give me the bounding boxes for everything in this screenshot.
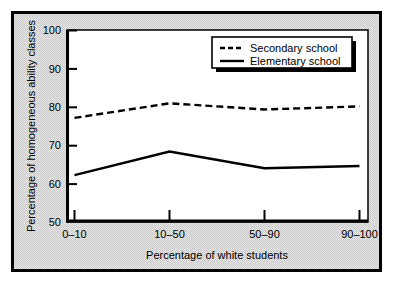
legend-label-elementary-school: Elementary school [250,55,341,67]
legend-label-secondary-school: Secondary school [250,42,337,54]
y-tick-label-90: 90 [49,63,61,75]
figure-container: 100 90 80 70 60 50 0–10 10–50 50–90 90–1… [0,0,400,293]
chart-legend: Secondary school Elementary school [212,37,356,72]
y-axis-title: Percentage of homogeneous ability classe… [25,19,37,232]
x-tick-label-0-10: 0–10 [62,228,86,240]
line-chart: 100 90 80 70 60 50 0–10 10–50 50–90 90–1… [0,0,400,293]
x-tick-label-50-90: 50–90 [249,228,280,240]
y-tick-label-50: 50 [49,216,61,228]
y-tick-label-70: 70 [49,139,61,151]
x-tick-label-90-100: 90–100 [341,228,378,240]
y-tick-label-80: 80 [49,101,61,113]
y-tick-label-60: 60 [49,178,61,190]
x-tick-label-10-50: 10–50 [154,228,185,240]
y-tick-label-100: 100 [43,24,61,36]
x-axis-title: Percentage of white students [146,249,288,261]
